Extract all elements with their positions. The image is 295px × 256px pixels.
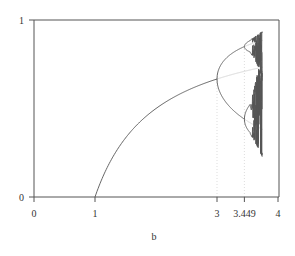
period2-stable-branch [217, 47, 244, 79]
y-tick-label: 0 [19, 192, 24, 203]
x-tick-label: 1 [93, 208, 98, 219]
x-tick-label: 3 [215, 208, 220, 219]
reference-lines [217, 47, 244, 197]
period2-stable-branch [217, 79, 244, 119]
x-axis-label: b [152, 231, 157, 242]
curves [95, 32, 263, 197]
bifurcation-chart: 0133.449401 b [0, 0, 295, 256]
fixed-stable-branch [95, 79, 217, 197]
x-tick-label: 4 [276, 208, 281, 219]
x-tick-label: 0 [32, 208, 37, 219]
x-tick-label: 3.449 [233, 208, 256, 219]
fixed-unstable-branch [217, 67, 263, 79]
y-tick-label: 1 [19, 15, 24, 26]
